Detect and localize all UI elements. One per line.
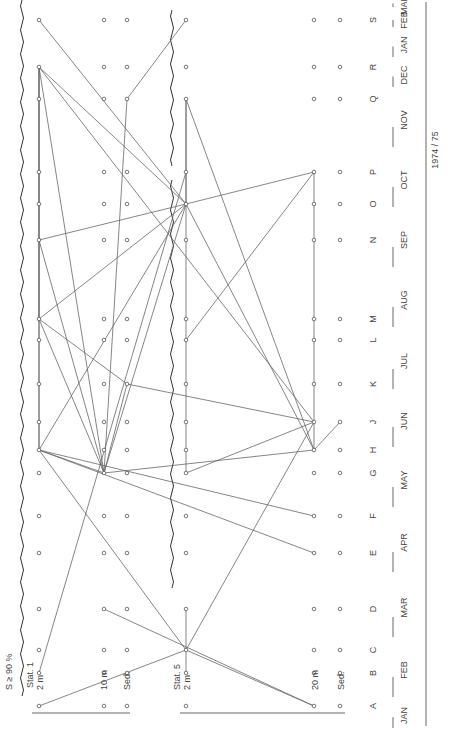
link-line bbox=[39, 204, 186, 240]
sample-point bbox=[125, 551, 129, 555]
link-line bbox=[39, 240, 104, 473]
sample-point bbox=[184, 170, 188, 174]
link-line bbox=[186, 650, 314, 706]
sample-point bbox=[312, 704, 316, 708]
link-line bbox=[104, 204, 186, 473]
link-line bbox=[104, 609, 314, 706]
depth-label: Sed. bbox=[122, 671, 132, 690]
sample-point bbox=[102, 471, 106, 475]
sample-point bbox=[125, 382, 129, 386]
sample-point bbox=[37, 648, 41, 652]
sample-point bbox=[312, 551, 316, 555]
sample-letter-H: H bbox=[368, 447, 378, 454]
sample-point bbox=[312, 648, 316, 652]
sample-letter-M: M bbox=[368, 315, 378, 323]
sample-point bbox=[184, 648, 188, 652]
sample-point bbox=[37, 18, 41, 22]
sample-point bbox=[338, 65, 342, 69]
sample-point bbox=[102, 97, 106, 101]
sample-point bbox=[102, 648, 106, 652]
criterion-label: S ≥ 90 % bbox=[4, 654, 14, 690]
sample-letter-F: F bbox=[368, 513, 378, 519]
sample-point bbox=[125, 648, 129, 652]
sample-point bbox=[338, 338, 342, 342]
sample-point bbox=[184, 317, 188, 321]
sample-point bbox=[37, 514, 41, 518]
sample-point bbox=[312, 65, 316, 69]
month-label-jul: JUL bbox=[399, 353, 409, 369]
sample-point bbox=[338, 514, 342, 518]
link-line bbox=[39, 20, 186, 204]
sample-letter-N: N bbox=[368, 237, 378, 244]
sample-point bbox=[312, 238, 316, 242]
sample-point bbox=[37, 97, 41, 101]
sample-point bbox=[184, 382, 188, 386]
sample-point bbox=[37, 170, 41, 174]
sample-point bbox=[102, 18, 106, 22]
sample-point bbox=[338, 97, 342, 101]
sample-point bbox=[312, 607, 316, 611]
sample-letter-K: K bbox=[368, 381, 378, 387]
sample-point bbox=[37, 607, 41, 611]
sample-point bbox=[102, 551, 106, 555]
sample-letter-Q: Q bbox=[368, 95, 378, 102]
sample-point bbox=[37, 704, 41, 708]
sample-letter-L: L bbox=[368, 337, 378, 342]
depth-label: 2 m bbox=[182, 675, 192, 690]
month-label-may: MAY bbox=[399, 471, 409, 490]
month-label-jan: JAN bbox=[399, 36, 409, 53]
month-label-jan: JAN bbox=[399, 707, 409, 724]
sample-point bbox=[37, 65, 41, 69]
sample-point bbox=[184, 514, 188, 518]
sample-letter-C: C bbox=[368, 646, 378, 653]
link-line bbox=[186, 172, 314, 340]
sample-point bbox=[312, 514, 316, 518]
sample-point bbox=[37, 317, 41, 321]
month-label-dec: DEC bbox=[399, 65, 409, 85]
sample-point bbox=[125, 65, 129, 69]
sample-point bbox=[102, 238, 106, 242]
month-label-jun: JUN bbox=[399, 412, 409, 430]
sample-point bbox=[312, 317, 316, 321]
month-label-mar: MAR bbox=[399, 597, 409, 618]
sample-point bbox=[102, 420, 106, 424]
sample-letter-A: A bbox=[368, 703, 378, 709]
sample-point bbox=[102, 317, 106, 321]
sample-point bbox=[312, 18, 316, 22]
sample-point bbox=[125, 317, 129, 321]
sample-point bbox=[184, 338, 188, 342]
sample-letter-J: J bbox=[368, 420, 378, 425]
sample-point bbox=[184, 202, 188, 206]
sample-point bbox=[125, 238, 129, 242]
sample-point bbox=[125, 471, 129, 475]
wave-line bbox=[21, 0, 24, 696]
station-5-label: Stat. 5 bbox=[172, 664, 182, 690]
sample-letter-O: O bbox=[368, 200, 378, 207]
similarity-links bbox=[39, 20, 340, 706]
sample-point bbox=[184, 551, 188, 555]
month-label-oct: OCT bbox=[399, 170, 409, 190]
sample-point bbox=[125, 97, 129, 101]
sample-point bbox=[102, 448, 106, 452]
sample-point bbox=[37, 551, 41, 555]
sample-point bbox=[184, 18, 188, 22]
link-line bbox=[186, 99, 314, 450]
sample-point bbox=[125, 448, 129, 452]
link-line bbox=[104, 450, 314, 473]
sample-letter-P: P bbox=[368, 169, 378, 175]
link-line bbox=[127, 20, 186, 99]
link-line bbox=[39, 67, 186, 204]
sample-point bbox=[338, 238, 342, 242]
sample-point bbox=[102, 607, 106, 611]
sample-point bbox=[102, 514, 106, 518]
sample-letter-R: R bbox=[368, 63, 378, 70]
link-line bbox=[39, 172, 186, 673]
sample-points bbox=[37, 18, 342, 708]
depth-label: 10 m bbox=[99, 670, 109, 690]
sample-point bbox=[312, 448, 316, 452]
sample-point bbox=[184, 238, 188, 242]
sample-point bbox=[37, 471, 41, 475]
sample-point bbox=[184, 448, 188, 452]
sample-point bbox=[338, 317, 342, 321]
sample-point bbox=[37, 448, 41, 452]
